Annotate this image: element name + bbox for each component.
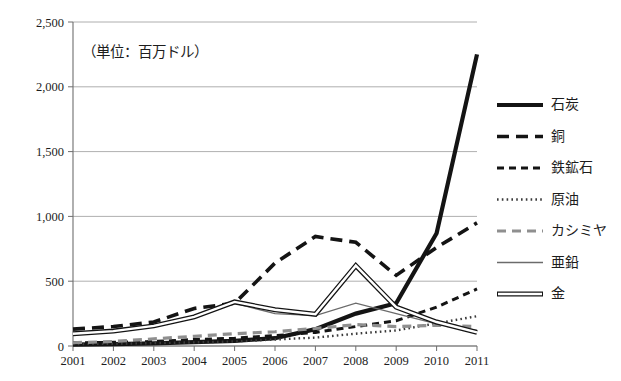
line-chart: 05001,0001,5002,0002,500 200120022003200…	[0, 0, 621, 381]
legend-label-原油: 原油	[551, 192, 579, 207]
y-axis-tick-label: 0	[58, 340, 64, 354]
chart-container: 05001,0001,5002,0002,500 200120022003200…	[0, 0, 621, 381]
x-axis-tick-label: 2011	[465, 354, 490, 368]
gridlines	[73, 22, 477, 346]
legend-item-カシミヤ[interactable]: カシミヤ	[497, 223, 607, 238]
legend-label-鉄鉱石: 鉄鉱石	[551, 159, 593, 175]
legend-item-石炭[interactable]: 石炭	[497, 97, 579, 112]
legend-label-銅: 銅	[551, 129, 565, 144]
legend-item-原油[interactable]: 原油	[497, 192, 579, 207]
unit-annotation: （単位：百万ドル）	[82, 44, 208, 60]
legend-label-亜鉛: 亜鉛	[551, 255, 579, 270]
y-axis-tick-label: 1,000	[36, 210, 64, 224]
x-axis-tick-label: 2006	[263, 354, 288, 368]
x-axis-tick-label: 2002	[101, 354, 126, 368]
x-axis-tick-label: 2010	[424, 354, 449, 368]
x-axis-tick-label: 2003	[141, 354, 166, 368]
x-axis-tick-label: 2009	[384, 354, 409, 368]
x-axis-tick-label: 2004	[182, 354, 208, 368]
x-axis-tick-label: 2001	[61, 354, 86, 368]
legend-item-亜鉛[interactable]: 亜鉛	[497, 255, 579, 270]
y-axis-tick-label: 500	[45, 275, 64, 289]
y-axis-tick-label: 1,500	[36, 145, 64, 159]
y-axis-tick-label: 2,500	[36, 16, 64, 30]
x-axis-tick-label: 2005	[222, 354, 247, 368]
series-line-石炭	[73, 54, 477, 344]
chart-legend: 石炭銅鉄鉱石原油カシミヤ亜鉛金	[497, 97, 607, 301]
legend-item-鉄鉱石[interactable]: 鉄鉱石	[497, 159, 593, 175]
x-axis-tick-label: 2007	[303, 354, 328, 368]
legend-label-金: 金	[551, 286, 565, 301]
legend-item-銅[interactable]: 銅	[497, 129, 565, 144]
legend-label-石炭: 石炭	[551, 97, 579, 112]
x-axis-tick-label: 2008	[343, 354, 368, 368]
legend-label-カシミヤ: カシミヤ	[551, 223, 607, 238]
x-axis-tick-labels: 2001200220032004200520062007200820092010…	[61, 354, 490, 368]
legend-item-金[interactable]: 金	[497, 286, 565, 301]
data-series	[73, 54, 477, 344]
y-axis-tick-labels: 05001,0001,5002,0002,500	[36, 16, 64, 354]
y-axis-tick-label: 2,000	[36, 80, 64, 94]
axes	[68, 22, 477, 351]
